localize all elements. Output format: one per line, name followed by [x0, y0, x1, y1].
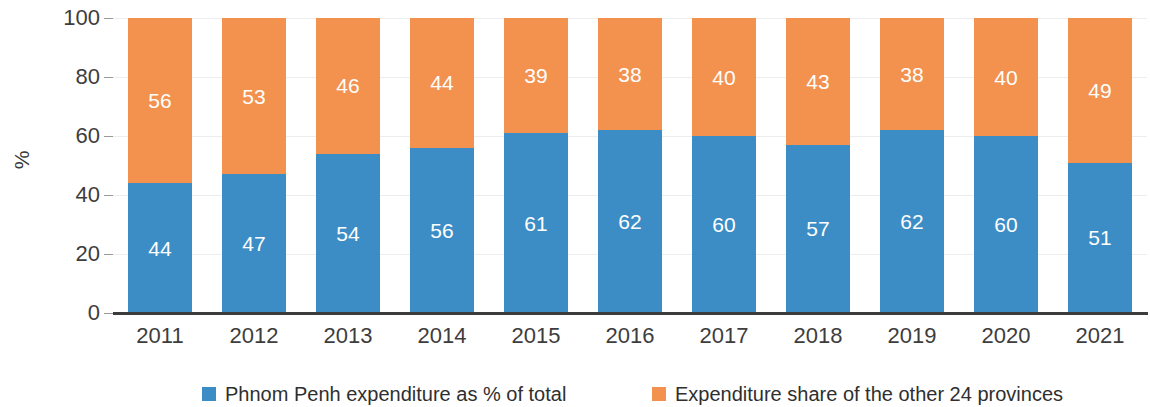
bar-value-label: 53	[242, 86, 265, 107]
bar-value-label: 39	[524, 65, 547, 86]
y-axis-title: %	[10, 140, 34, 180]
bar-value-label: 62	[618, 211, 641, 232]
bar-segment-other-provinces[interactable]: 39	[504, 18, 568, 133]
bar-value-label: 40	[712, 67, 735, 88]
bar-value-label: 44	[148, 238, 171, 259]
bar-group[interactable]: 4456	[410, 18, 474, 313]
bar-value-label: 46	[336, 75, 359, 96]
legend-swatch-icon	[202, 387, 216, 401]
bar-value-label: 43	[806, 71, 829, 92]
bar-segment-other-provinces[interactable]: 40	[974, 18, 1038, 136]
bar-segment-other-provinces[interactable]: 40	[692, 18, 756, 136]
bar-segment-phnom-penh[interactable]: 61	[504, 133, 568, 313]
x-axis-tick-label: 2013	[298, 325, 398, 347]
bar-segment-phnom-penh[interactable]: 62	[880, 130, 944, 313]
bar-segment-phnom-penh[interactable]: 44	[128, 183, 192, 313]
bar-value-label: 44	[430, 72, 453, 93]
bar-value-label: 47	[242, 233, 265, 254]
bar-segment-phnom-penh[interactable]: 62	[598, 130, 662, 313]
y-axis-tick-label: 20	[34, 243, 100, 265]
bar-segment-phnom-penh[interactable]: 60	[692, 136, 756, 313]
y-axis-tick-label: 80	[34, 66, 100, 88]
bar-segment-other-provinces[interactable]: 44	[410, 18, 474, 148]
bar-group[interactable]: 3862	[880, 18, 944, 313]
y-axis-tick-mark	[104, 254, 113, 255]
legend-label: Phnom Penh expenditure as % of total	[225, 384, 566, 404]
bar-group[interactable]: 4060	[974, 18, 1038, 313]
bar-group[interactable]: 4654	[316, 18, 380, 313]
x-axis-tick-label: 2016	[580, 325, 680, 347]
x-axis-tick-label: 2020	[956, 325, 1056, 347]
bar-value-label: 57	[806, 218, 829, 239]
x-axis-tick-label: 2015	[486, 325, 586, 347]
bar-segment-other-provinces[interactable]: 49	[1068, 18, 1132, 163]
bar-value-label: 54	[336, 223, 359, 244]
bar-segment-phnom-penh[interactable]: 54	[316, 154, 380, 313]
x-axis-tick-label: 2012	[204, 325, 304, 347]
bar-value-label: 60	[994, 214, 1017, 235]
x-axis-tick-label: 2021	[1050, 325, 1150, 347]
bar-group[interactable]: 4060	[692, 18, 756, 313]
plot-area: 5644534746544456396138624060435738624060…	[113, 18, 1147, 313]
y-axis-tick-mark	[104, 18, 113, 19]
y-axis-tick-label: 40	[34, 184, 100, 206]
y-axis-tick-label: 60	[34, 125, 100, 147]
y-axis-tick-label: 100	[34, 7, 100, 29]
x-axis-tick-label: 2019	[862, 325, 962, 347]
bar-group[interactable]: 4357	[786, 18, 850, 313]
bar-value-label: 56	[430, 220, 453, 241]
x-axis-tick-label: 2014	[392, 325, 492, 347]
y-axis-tick-mark	[104, 195, 113, 196]
bar-segment-phnom-penh[interactable]: 51	[1068, 163, 1132, 313]
legend-item-phnom-penh[interactable]: Phnom Penh expenditure as % of total	[202, 380, 566, 407]
x-axis-line	[113, 312, 1148, 315]
bar-value-label: 49	[1088, 80, 1111, 101]
bar-segment-phnom-penh[interactable]: 56	[410, 148, 474, 313]
bar-group[interactable]: 4951	[1068, 18, 1132, 313]
bar-segment-other-provinces[interactable]: 38	[598, 18, 662, 130]
y-axis-tick-mark	[104, 136, 113, 137]
bar-segment-other-provinces[interactable]: 56	[128, 18, 192, 183]
y-axis-tick-label: 0	[34, 302, 100, 324]
legend-item-other-provinces[interactable]: Expenditure share of the other 24 provin…	[652, 380, 1063, 407]
x-axis-tick-label: 2018	[768, 325, 868, 347]
bar-value-label: 61	[524, 213, 547, 234]
bar-segment-other-provinces[interactable]: 43	[786, 18, 850, 145]
bar-value-label: 40	[994, 67, 1017, 88]
legend-label: Expenditure share of the other 24 provin…	[675, 384, 1063, 404]
bar-group[interactable]: 3961	[504, 18, 568, 313]
bar-segment-phnom-penh[interactable]: 60	[974, 136, 1038, 313]
bar-segment-phnom-penh[interactable]: 57	[786, 145, 850, 313]
bar-value-label: 62	[900, 211, 923, 232]
bar-value-label: 56	[148, 90, 171, 111]
bar-segment-other-provinces[interactable]: 46	[316, 18, 380, 154]
bar-group[interactable]: 5644	[128, 18, 192, 313]
stacked-bar-chart: % 020406080100 5644534746544456396138624…	[0, 0, 1150, 407]
chart-legend: Phnom Penh expenditure as % of total Exp…	[0, 380, 1150, 407]
bar-value-label: 51	[1088, 227, 1111, 248]
x-axis-tick-label: 2017	[674, 325, 774, 347]
bar-segment-other-provinces[interactable]: 53	[222, 18, 286, 174]
bar-segment-phnom-penh[interactable]: 47	[222, 174, 286, 313]
y-axis-tick-mark	[104, 77, 113, 78]
bar-value-label: 38	[618, 64, 641, 85]
y-axis-tick-mark	[104, 313, 113, 314]
bar-segment-other-provinces[interactable]: 38	[880, 18, 944, 130]
bar-value-label: 60	[712, 214, 735, 235]
x-axis-tick-label: 2011	[110, 325, 210, 347]
bar-group[interactable]: 3862	[598, 18, 662, 313]
bar-value-label: 38	[900, 64, 923, 85]
bar-group[interactable]: 5347	[222, 18, 286, 313]
legend-swatch-icon	[652, 387, 666, 401]
